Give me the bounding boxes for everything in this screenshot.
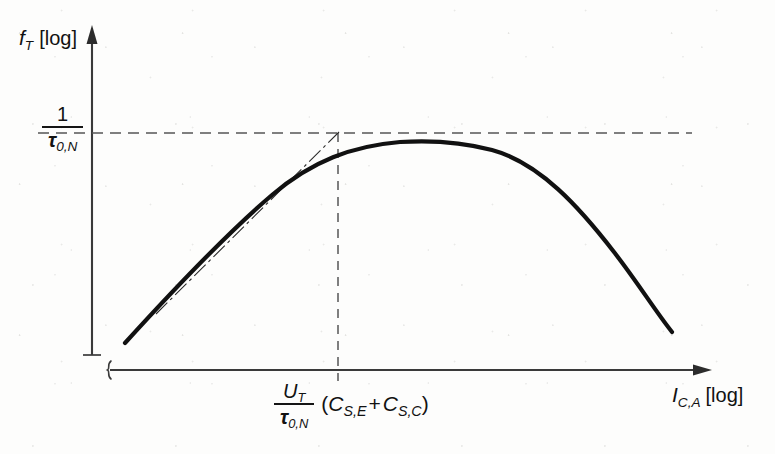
x-axis-title: IC,A[log] [672, 384, 743, 405]
x-tick-numerator: UT [274, 381, 314, 402]
y-axis-tick-label: 1 τ0,N [42, 104, 83, 150]
voltage-subscript: T [297, 390, 305, 405]
y-axis-arrowhead [87, 25, 98, 44]
y-axis-symbol: f [19, 26, 25, 49]
capacitance-sum-expression: (CS,E+CS,C) [314, 393, 428, 414]
y-axis-subscript: T [25, 38, 33, 53]
x-axis-bracket: [log] [706, 384, 744, 406]
capacitance-second-symbol: C [383, 392, 398, 415]
voltage-symbol: U [283, 380, 297, 402]
y-tick-numerator: 1 [42, 104, 83, 125]
x-axis-arrowhead [693, 365, 712, 376]
y-axis-bracket: [log] [39, 27, 77, 49]
y-tick-denominator: τ0,N [42, 129, 83, 150]
capacitance-second-subscript: S,C [398, 403, 422, 419]
transit-frequency-curve [125, 141, 672, 343]
x-tick-denominator: τ0,N [274, 406, 314, 427]
y-tick-fraction: 1 τ0,N [42, 104, 83, 150]
tau-symbol-x: τ [280, 406, 288, 428]
y-tick-fraction-bar [42, 126, 83, 128]
axis-group [83, 25, 712, 379]
initial-slope-asymptote [156, 132, 339, 314]
sum-operator: + [368, 392, 380, 415]
x-axis-tick-label: UT τ0,N (CS,E+CS,C) [274, 381, 429, 427]
capacitance-first-subscript: S,E [343, 403, 366, 419]
reference-lines [38, 133, 692, 381]
x-axis-symbol: I [672, 383, 678, 406]
x-axis-subscript: C,A [678, 395, 701, 410]
capacitance-first-symbol: C [328, 392, 343, 415]
y-axis-title: fT[log] [19, 27, 77, 48]
tau-subscript-x: 0,N [288, 416, 308, 431]
tau-subscript: 0,N [56, 139, 77, 154]
tau-symbol: τ [48, 129, 56, 151]
paren-close: ) [422, 392, 429, 415]
figure-root: fT[log] IC,A[log] 1 τ0,N UT τ0,N (CS,E+C… [0, 0, 775, 454]
x-tick-fraction-bar [274, 403, 314, 405]
x-tick-fraction: UT τ0,N [274, 381, 314, 427]
